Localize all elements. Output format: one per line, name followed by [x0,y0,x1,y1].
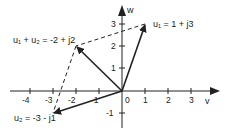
x-tick-label: 2 [166,96,171,105]
axis-arrow-icon [118,5,126,16]
x-tick-label: -4 [22,96,30,105]
x-tick-label: 3 [189,96,194,105]
w-axis-label: w [127,6,134,15]
origin-label: 0 [125,96,130,105]
u2-label: u₂ = -3 - j1 [14,114,56,123]
u1-label: u₁ = 1 + j3 [153,20,194,29]
y-tick-label: 1 [111,64,116,73]
x-tick-label: -2 [68,96,76,105]
y-tick-label: 3 [111,20,116,29]
v-axis-label: v [205,97,210,106]
vector-u1 [122,25,145,91]
axis-arrow-icon [210,87,220,95]
y-tick-label: 2 [111,42,116,51]
y-tick-label: -1 [106,109,114,118]
vector-diagram: v w 0 -4 -3 -2 -1 1 2 3 3 2 1 -1 u₁ = 1 … [0,0,229,135]
x-tick-label: 1 [143,96,148,105]
x-tick-label: -3 [45,96,53,105]
sum-label: u₁ + u₂ = -2 + j2 [13,36,75,45]
x-tick-label: -1 [91,96,99,105]
vertical-axis [118,5,126,128]
